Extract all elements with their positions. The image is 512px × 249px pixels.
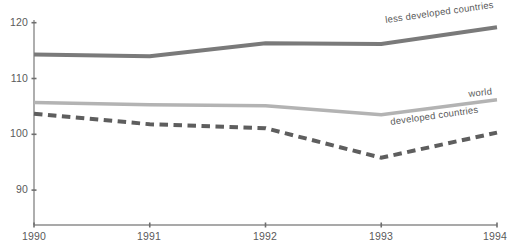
x-tick-label-1990: 1990 — [9, 230, 59, 242]
x-tick-label-1993: 1993 — [356, 230, 406, 242]
x-tick-label-1991: 1991 — [124, 230, 174, 242]
series-line-less-developed-countries — [34, 27, 497, 56]
x-tick-label-1994: 1994 — [470, 230, 512, 242]
series-lines — [34, 27, 497, 158]
x-tick-label-1992: 1992 — [240, 230, 290, 242]
y-tick-label-120: 120 — [0, 16, 28, 28]
y-tick-label-90: 90 — [0, 183, 28, 195]
y-tick-label-110: 110 — [0, 72, 28, 84]
y-tick-label-100: 100 — [0, 127, 28, 139]
